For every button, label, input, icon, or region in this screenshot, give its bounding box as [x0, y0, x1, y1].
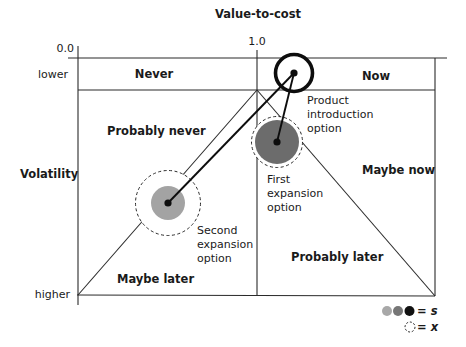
region-maybe-later: Maybe later [117, 272, 194, 286]
legend-light-gray-circle-icon [382, 306, 392, 316]
x-tick-0: 0.0 [57, 42, 75, 55]
region-never: Never [135, 67, 174, 81]
x-tick-1: 1.0 [248, 35, 266, 48]
x-axis-title: Value-to-cost [215, 7, 301, 21]
region-maybe-now: Maybe now [362, 163, 435, 177]
bottom-border [77, 295, 435, 296]
product-introduction-label: Product introduction option [307, 94, 377, 135]
first-expansion-label: First expansion option [267, 173, 327, 214]
legend-dashed-circle-icon [405, 322, 415, 332]
first-expansion-dot [273, 138, 280, 145]
region-probably-later: Probably later [291, 250, 384, 264]
y-tick-lower: lower [38, 68, 69, 81]
y-axis-title: Volatility [20, 167, 79, 181]
region-probably-never: Probably never [107, 124, 206, 138]
region-now: Now [362, 69, 391, 83]
y-tick-higher: higher [35, 288, 71, 301]
option-timing-diagram: Value-to-cost 1.0 0.0 lower higher Volat… [0, 0, 466, 347]
legend-x-label: = x [417, 320, 439, 334]
second-expansion-dot [164, 199, 171, 206]
product-introduction-dot [290, 69, 297, 76]
legend: = s = x [382, 304, 439, 334]
legend-dark-gray-circle-icon [393, 306, 403, 316]
second-expansion-label: Second expansion option [197, 224, 257, 265]
legend-s-label: = s [417, 304, 438, 318]
legend-black-circle-icon [405, 306, 415, 316]
